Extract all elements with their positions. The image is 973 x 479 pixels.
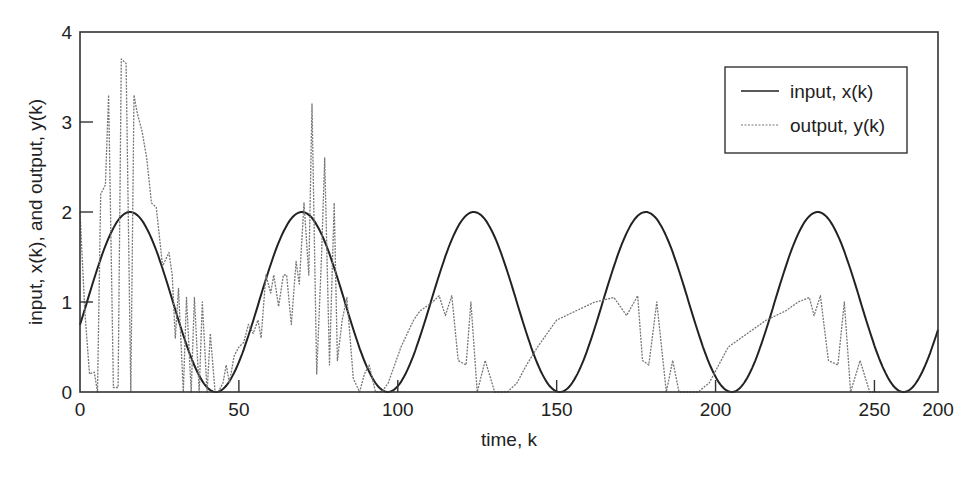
y-tick-label: 2 bbox=[61, 202, 72, 223]
x-tick-label: 250 bbox=[859, 399, 891, 420]
x-tick-label: 200 bbox=[700, 399, 732, 420]
x-tick-label: 200 bbox=[922, 399, 954, 420]
x-tick-label: 50 bbox=[228, 399, 249, 420]
y-tick-label: 3 bbox=[61, 112, 72, 133]
x-tick-label: 0 bbox=[75, 399, 86, 420]
line-chart: 050100150200250200 01234 time, k input, … bbox=[0, 0, 973, 479]
y-tick-label: 1 bbox=[61, 292, 72, 313]
x-axis-label: time, k bbox=[481, 429, 537, 450]
y-axis-label: input, x(k), and output, y(k) bbox=[25, 99, 46, 325]
x-tick-label: 150 bbox=[541, 399, 573, 420]
y-tick-label: 4 bbox=[61, 22, 72, 43]
input-line bbox=[80, 212, 938, 392]
legend-output-label: output, y(k) bbox=[790, 115, 885, 136]
x-tick-label: 100 bbox=[382, 399, 414, 420]
legend: input, x(k) output, y(k) bbox=[725, 67, 907, 153]
y-axis-ticks: 01234 bbox=[61, 22, 93, 403]
input-series-line bbox=[80, 212, 938, 392]
y-tick-label: 0 bbox=[61, 382, 72, 403]
legend-input-label: input, x(k) bbox=[790, 81, 873, 102]
legend-box bbox=[725, 67, 907, 153]
